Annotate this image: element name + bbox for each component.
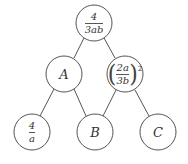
node-label: B	[90, 125, 100, 140]
node-label: A	[59, 67, 68, 82]
denominator: 3b	[116, 75, 129, 86]
left-paren: (	[108, 62, 117, 86]
denominator: a	[29, 133, 35, 144]
node-b: B	[77, 114, 113, 150]
numerator: 2a	[117, 63, 129, 74]
node-c: C	[140, 114, 176, 150]
denominator: 3ab	[85, 24, 104, 35]
exponent: 2	[138, 65, 142, 73]
node-label: C	[153, 125, 163, 140]
node-a: A	[46, 56, 82, 92]
node-squared-fraction: ( 2a 3b ) 2	[107, 56, 143, 92]
node-bottom-left: 4 a	[14, 114, 50, 150]
numerator: 4	[29, 121, 35, 132]
numerator: 4	[91, 12, 97, 23]
right-paren: )	[129, 62, 138, 86]
fraction: 4 3ab	[85, 12, 104, 35]
node-top: 4 3ab	[76, 5, 112, 41]
fraction: 2a 3b	[116, 63, 129, 86]
parenthesized-expression: ( 2a 3b ) 2	[108, 63, 142, 86]
pyramid-diagram: 4 3ab A ( 2a 3b ) 2 4 a B C	[0, 0, 188, 164]
fraction: 4 a	[29, 121, 35, 144]
